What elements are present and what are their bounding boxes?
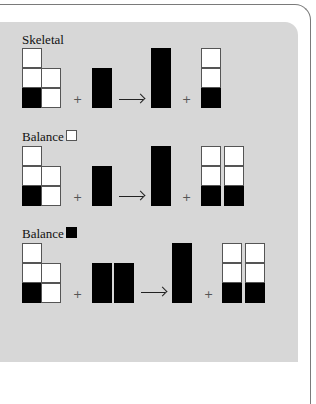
cell-white: [41, 263, 61, 283]
cell-black: [201, 186, 221, 206]
tall-black-block: [151, 48, 171, 108]
section-label: Balance: [22, 227, 64, 240]
plus-sign: +: [73, 94, 82, 105]
arrow-right-icon: [119, 99, 143, 100]
plus-sign: +: [204, 289, 213, 300]
cell-white: [201, 146, 221, 166]
cell-black: [201, 88, 221, 108]
cell-white: [41, 283, 61, 303]
cell-white: [224, 166, 244, 186]
black-square-icon: [66, 227, 77, 238]
cell-white: [224, 146, 244, 166]
cell-white: [22, 263, 42, 283]
plus-sign: +: [182, 192, 191, 203]
cell-black: [22, 186, 42, 206]
cell-white: [22, 146, 42, 166]
cell-white: [41, 166, 61, 186]
cell-white: [22, 48, 42, 68]
cell-white: [201, 48, 221, 68]
plus-sign: +: [73, 289, 82, 300]
cell-white: [245, 263, 265, 283]
cell-white: [245, 243, 265, 263]
tall-black-block: [172, 243, 192, 303]
arrow-right-icon: [141, 292, 165, 293]
cell-white: [222, 243, 242, 263]
cell-white: [201, 68, 221, 88]
cell-black: [224, 186, 244, 206]
black-block: [92, 68, 112, 108]
cell-black: [245, 283, 265, 303]
black-block: [92, 166, 112, 206]
white-square-icon: [66, 130, 77, 141]
cell-white: [41, 186, 61, 206]
cell-white: [41, 88, 61, 108]
section-label: Skeletal: [22, 33, 64, 46]
cell-black: [22, 283, 42, 303]
plus-sign: +: [73, 192, 82, 203]
cell-white: [222, 263, 242, 283]
cell-white: [22, 243, 42, 263]
cell-white: [41, 68, 61, 88]
arrow-right-icon: [119, 196, 143, 197]
plus-sign: +: [182, 94, 191, 105]
tall-black-block: [151, 146, 171, 206]
cell-white: [22, 68, 42, 88]
cell-white: [201, 166, 221, 186]
black-block: [92, 263, 112, 303]
cell-black: [222, 283, 242, 303]
cell-white: [22, 166, 42, 186]
cell-black: [22, 88, 42, 108]
black-block: [114, 263, 134, 303]
section-label: Balance: [22, 130, 64, 143]
